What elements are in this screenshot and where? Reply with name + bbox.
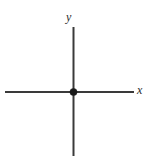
- origin-point-marker: [70, 88, 77, 95]
- y-axis-label: y: [66, 11, 71, 23]
- x-axis-label: x: [137, 84, 142, 96]
- axes-drawing: [0, 0, 149, 156]
- coordinate-axes-figure: y x: [0, 0, 149, 156]
